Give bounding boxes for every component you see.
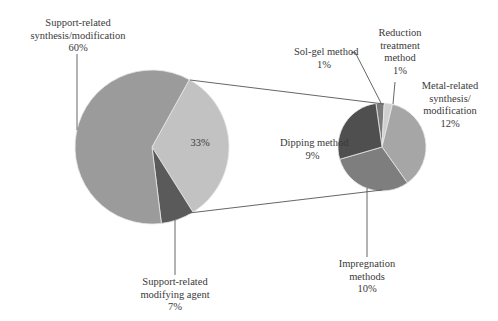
label-pct: 1% [294,59,354,72]
label-support-synthesis: Support-related synthesis/modification 6… [28,17,128,55]
label-impregnation: Impregnation methods 10% [332,258,402,296]
label-reduction: Reduction treatment method 1% [370,27,430,77]
label-text: modifying agent [125,289,225,302]
label-text: Dipping method [280,137,345,150]
label-text: synthesis/modification [28,30,128,43]
label-text: Metal-related [410,80,490,93]
label-dipping: Dipping method 9% [280,137,345,162]
label-pct: 1% [370,65,430,78]
label-pct: 10% [332,283,402,296]
label-text: methods [332,271,402,284]
label-pct: 33% [185,137,215,150]
label-text: Reduction [370,27,430,40]
label-text: modification [410,105,490,118]
label-text: Sol-gel method [294,46,354,59]
connector-top [190,80,384,104]
label-pct: 60% [28,42,128,55]
label-text: Impregnation [332,258,402,271]
label-text: treatment [370,40,430,53]
label-text: Support-related [125,276,225,289]
label-pct: 9% [280,150,345,163]
label-text: method [370,52,430,65]
label-pct: 7% [125,301,225,314]
label-text: synthesis/ [410,93,490,106]
leader-reduction [393,82,395,104]
label-text: Support-related [28,17,128,30]
label-support-agent: Support-related modifying agent 7% [125,276,225,314]
connector-bottom [189,190,382,213]
label-other-pct: 33% [185,137,215,150]
label-metal: Metal-related synthesis/ modification 12… [410,80,490,130]
label-solgel: Sol-gel method 1% [294,46,354,71]
label-pct: 12% [410,118,490,131]
